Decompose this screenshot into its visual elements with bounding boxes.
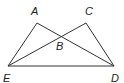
segment-AE (8, 23, 37, 66)
label-D: D (111, 72, 119, 83)
geometry-figure: A C B E D (0, 0, 124, 83)
segment-CD (86, 23, 114, 66)
segment-AD (37, 23, 114, 66)
segment-CE (8, 23, 86, 66)
label-E: E (3, 72, 11, 83)
label-A: A (30, 5, 38, 17)
label-B: B (56, 40, 63, 52)
label-C: C (85, 5, 93, 17)
